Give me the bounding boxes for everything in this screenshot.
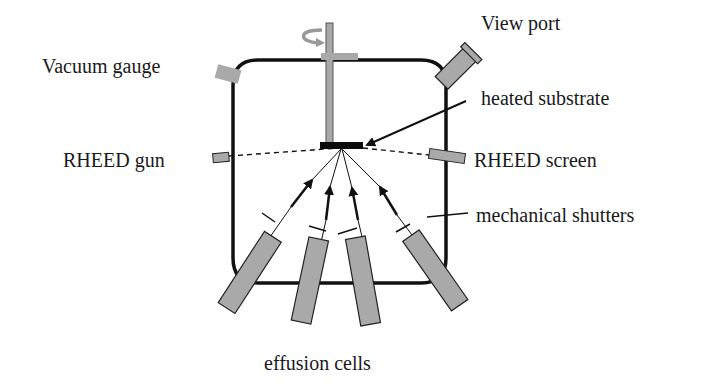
effusion-cells-label: effusion cells (264, 353, 371, 373)
rheed-screen-label: RHEED screen (474, 150, 597, 170)
rotation-arrow-icon (304, 30, 326, 47)
rheed-gun-label: RHEED gun (63, 150, 165, 170)
manipulator-rod (326, 23, 333, 143)
effusion-cell-1 (218, 231, 281, 313)
mechanical-shutters-label: mechanical shutters (476, 205, 634, 225)
heated-substrate (320, 142, 363, 149)
effusion-cells (218, 230, 468, 326)
manipulator-flange (321, 53, 358, 60)
electron-beam-out (363, 148, 429, 155)
effusion-cell-3 (346, 236, 381, 326)
electron-beam-in (229, 148, 340, 156)
substrate-pointer (367, 101, 466, 145)
rheed-screen (428, 149, 465, 164)
effusion-cell-2 (291, 237, 328, 324)
effusion-cell-4 (403, 230, 468, 311)
vacuum-gauge-label: Vacuum gauge (42, 56, 160, 76)
heated-substrate-label: heated substrate (481, 88, 609, 108)
view-port-label: View port (481, 13, 560, 33)
rheed-gun (213, 152, 230, 162)
